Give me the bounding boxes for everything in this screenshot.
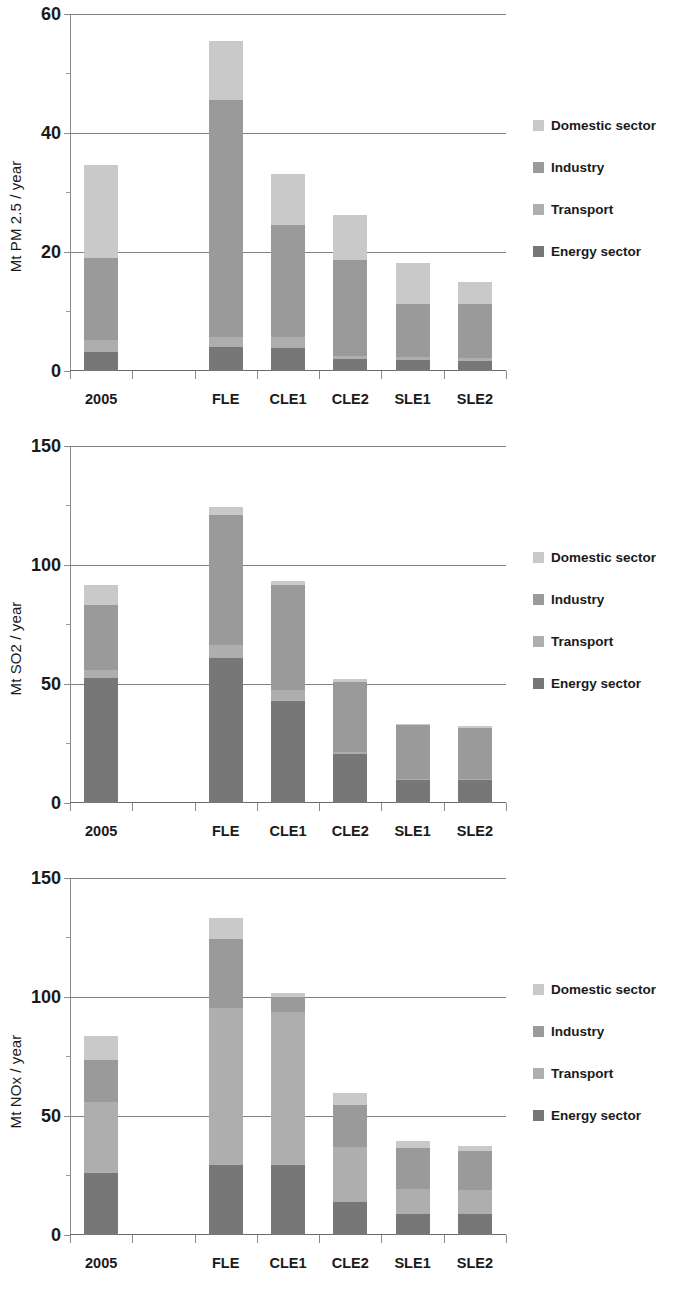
y-tick-mark-pm25-60	[64, 14, 70, 15]
y-axis-line-nox	[70, 878, 71, 1235]
y-minor-tick-so2	[66, 743, 70, 744]
bar-segment-nox-cle2-domestic	[333, 1093, 367, 1105]
bar-so2-fle	[209, 507, 243, 803]
bar-segment-pm25-sle2-industry	[458, 304, 492, 358]
x-axis-label-so2-sle2: SLE2	[457, 823, 493, 839]
bar-segment-nox-sle2-industry	[458, 1151, 492, 1190]
bar-segment-so2-sle2-industry	[458, 728, 492, 779]
y-tick-label-pm25-40: 40	[41, 123, 61, 144]
bar-segment-so2-2005-transport	[84, 670, 118, 678]
legend-item-pm25-energy: Energy sector	[533, 244, 641, 259]
legend-item-so2-domestic: Domestic sector	[533, 550, 656, 565]
bar-pm25-cle1	[271, 173, 305, 371]
bar-segment-nox-2005-energy	[84, 1173, 118, 1235]
bar-segment-nox-cle1-industry	[271, 997, 305, 1012]
x-axis-label-nox-2005: 2005	[85, 1255, 117, 1271]
bar-segment-so2-sle1-energy	[396, 780, 430, 803]
legend-swatch-icon-industry	[533, 1026, 544, 1037]
x-axis-label-nox-cle2: CLE2	[332, 1255, 369, 1271]
x-tick-mark-so2	[319, 803, 320, 811]
x-tick-mark-pm25	[195, 371, 196, 379]
legend-label-transport: Transport	[551, 634, 613, 649]
bar-pm25-fle	[209, 41, 243, 371]
x-tick-mark-nox	[70, 1235, 71, 1243]
x-axis-label-pm25-sle2: SLE2	[457, 391, 493, 407]
x-tick-mark-nox	[319, 1235, 320, 1243]
y-tick-label-pm25-0: 0	[51, 361, 61, 382]
bar-segment-nox-cle2-energy	[333, 1202, 367, 1235]
bar-segment-so2-cle1-energy	[271, 701, 305, 803]
legend-label-domestic: Domestic sector	[551, 550, 656, 565]
x-axis-label-pm25-fle: FLE	[212, 391, 239, 407]
y-axis-title-so2: Mt SO2 / year	[2, 432, 30, 864]
bar-segment-so2-fle-industry	[209, 515, 243, 645]
x-tick-mark-so2	[70, 803, 71, 811]
legend-swatch-icon-domestic	[533, 984, 544, 995]
x-tick-mark-pm25	[444, 371, 445, 379]
bar-segment-pm25-cle1-transport	[271, 337, 305, 349]
x-axis-label-pm25-2005: 2005	[85, 391, 117, 407]
bar-segment-so2-cle2-industry	[333, 682, 367, 752]
legend-label-transport: Transport	[551, 1066, 613, 1081]
y-tick-mark-so2-50	[64, 684, 70, 685]
y-tick-label-so2-0: 0	[51, 793, 61, 814]
bar-segment-so2-2005-domestic	[84, 585, 118, 605]
plot-area-nox: 0501001502005FLECLE1CLE2SLE1SLE2	[70, 878, 506, 1235]
legend-label-industry: Industry	[551, 160, 604, 175]
x-tick-mark-pm25	[319, 371, 320, 379]
y-minor-tick-pm25	[66, 73, 70, 74]
bar-so2-cle2	[333, 679, 367, 803]
x-axis-label-so2-sle1: SLE1	[394, 823, 430, 839]
bar-nox-cle1	[271, 993, 305, 1235]
legend-label-energy: Energy sector	[551, 244, 641, 259]
x-tick-mark-pm25	[70, 371, 71, 379]
x-axis-label-nox-cle1: CLE1	[269, 1255, 306, 1271]
bar-segment-pm25-cle1-industry	[271, 225, 305, 336]
bar-segment-so2-cle2-energy	[333, 754, 367, 803]
legend-item-so2-energy: Energy sector	[533, 676, 641, 691]
bar-segment-nox-2005-domestic	[84, 1036, 118, 1060]
bar-segment-so2-2005-energy	[84, 678, 118, 803]
y-minor-tick-so2	[66, 624, 70, 625]
x-axis-label-so2-cle2: CLE2	[332, 823, 369, 839]
x-tick-mark-pm25	[381, 371, 382, 379]
y-minor-tick-pm25	[66, 192, 70, 193]
x-axis-label-so2-2005: 2005	[85, 823, 117, 839]
y-tick-label-so2-100: 100	[31, 555, 61, 576]
bar-segment-pm25-sle1-industry	[396, 304, 430, 358]
legend-swatch-icon-transport	[533, 1068, 544, 1079]
x-tick-mark-nox	[506, 1235, 507, 1243]
bar-segment-pm25-fle-domestic	[209, 41, 243, 101]
bar-so2-sle2	[458, 726, 492, 803]
bar-segment-pm25-cle1-energy	[271, 348, 305, 371]
gridline-pm25-60	[70, 14, 506, 15]
bar-segment-nox-fle-domestic	[209, 918, 243, 938]
y-tick-label-pm25-60: 60	[41, 4, 61, 25]
bar-segment-pm25-2005-transport	[84, 340, 118, 352]
bar-segment-nox-sle1-transport	[396, 1189, 430, 1214]
y-tick-mark-pm25-20	[64, 252, 70, 253]
x-axis-label-nox-sle2: SLE2	[457, 1255, 493, 1271]
y-minor-tick-nox	[66, 1056, 70, 1057]
legend-swatch-icon-transport	[533, 636, 544, 647]
legend-swatch-icon-transport	[533, 204, 544, 215]
legend-item-nox-transport: Transport	[533, 1066, 613, 1081]
bar-segment-pm25-sle1-domestic	[396, 263, 430, 303]
legend-item-pm25-industry: Industry	[533, 160, 604, 175]
legend-swatch-icon-energy	[533, 1110, 544, 1121]
chart-panel-nox: Mt NOx / year 0501001502005FLECLE1CLE2SL…	[0, 864, 676, 1298]
bar-segment-pm25-2005-energy	[84, 352, 118, 371]
x-tick-mark-nox	[444, 1235, 445, 1243]
y-minor-tick-pm25	[66, 311, 70, 312]
bar-segment-so2-fle-transport	[209, 645, 243, 658]
bar-segment-nox-2005-industry	[84, 1060, 118, 1102]
bar-segment-nox-cle1-transport	[271, 1012, 305, 1164]
y-tick-mark-pm25-40	[64, 133, 70, 134]
y-axis-title-nox: Mt NOx / year	[2, 864, 30, 1298]
figure-root: Mt PM 2.5 / year 02040602005FLECLE1CLE2S…	[0, 0, 676, 1298]
legend-swatch-icon-energy	[533, 246, 544, 257]
bar-segment-nox-sle2-energy	[458, 1214, 492, 1235]
bar-segment-nox-fle-transport	[209, 1008, 243, 1165]
bar-segment-nox-fle-energy	[209, 1165, 243, 1235]
legend-swatch-icon-domestic	[533, 552, 544, 563]
